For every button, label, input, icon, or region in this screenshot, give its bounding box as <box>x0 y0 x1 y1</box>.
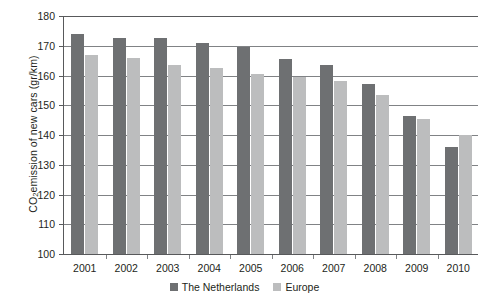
bar-europe-2005 <box>251 74 264 254</box>
plot-area <box>63 16 478 254</box>
legend-label: The Netherlands <box>182 281 260 293</box>
bar-the-netherlands-2007 <box>320 65 333 254</box>
y-tickmark-140 <box>59 135 63 136</box>
bar-europe-2002 <box>127 58 140 254</box>
bar-the-netherlands-2006 <box>279 59 292 254</box>
gridline-170 <box>64 46 478 47</box>
legend-label: Europe <box>285 281 319 293</box>
bar-the-netherlands-2002 <box>113 38 126 254</box>
bar-europe-2010 <box>459 135 472 254</box>
bar-europe-2007 <box>334 81 347 254</box>
x-tickmark-2008 <box>355 255 356 259</box>
x-tick-label-2003: 2003 <box>145 262 191 274</box>
plot-top-border <box>63 16 478 17</box>
bar-the-netherlands-2008 <box>362 84 375 254</box>
x-tick-label-2005: 2005 <box>228 262 274 274</box>
x-tickmark-2006 <box>272 255 273 259</box>
y-tickmark-110 <box>59 224 63 225</box>
y-tick-label-100: 100 <box>27 249 55 259</box>
x-tick-label-2007: 2007 <box>311 262 357 274</box>
y-tick-label-160: 160 <box>27 71 55 81</box>
y-tickmark-150 <box>59 105 63 106</box>
y-tickmark-160 <box>59 76 63 77</box>
x-tickmark-2004 <box>189 255 190 259</box>
x-tickmark-2003 <box>147 255 148 259</box>
legend-swatch-icon-eu <box>273 283 281 291</box>
x-tickmark-2007 <box>313 255 314 259</box>
bar-the-netherlands-2003 <box>154 38 167 254</box>
y-tick-label-170: 170 <box>27 41 55 51</box>
x-tick-label-2004: 2004 <box>186 262 232 274</box>
bar-the-netherlands-2010 <box>445 147 458 254</box>
y-tickmark-130 <box>59 165 63 166</box>
bar-europe-2009 <box>417 119 430 254</box>
bar-europe-2008 <box>376 95 389 254</box>
bar-europe-2003 <box>168 65 181 254</box>
x-tick-label-2001: 2001 <box>62 262 108 274</box>
y-tickmark-120 <box>59 195 63 196</box>
x-tick-label-2002: 2002 <box>103 262 149 274</box>
bar-the-netherlands-2004 <box>196 43 209 254</box>
x-axis-line <box>63 254 478 255</box>
bar-europe-2001 <box>85 55 98 254</box>
y-tick-label-150: 150 <box>27 100 55 110</box>
bar-europe-2004 <box>210 68 223 254</box>
x-tickmark-2002 <box>106 255 107 259</box>
y-tick-label-110: 110 <box>27 219 55 229</box>
y-tick-label-120: 120 <box>27 190 55 200</box>
x-tick-label-2008: 2008 <box>352 262 398 274</box>
x-tick-label-2010: 2010 <box>435 262 481 274</box>
x-tick-label-2009: 2009 <box>394 262 440 274</box>
co2-emission-bar-chart: CO2 emission of new cars (gr/km) 1801701… <box>0 0 489 300</box>
y-tick-label-180: 180 <box>27 11 55 21</box>
bar-the-netherlands-2001 <box>71 34 84 254</box>
bar-europe-2006 <box>293 77 306 254</box>
y-tick-label-130: 130 <box>27 160 55 170</box>
y-tickmark-100 <box>59 254 63 255</box>
y-tick-label-140: 140 <box>27 130 55 140</box>
x-tickmark-2010 <box>438 255 439 259</box>
x-tick-label-2006: 2006 <box>269 262 315 274</box>
x-tickmark-2009 <box>396 255 397 259</box>
legend-item-the-netherlands[interactable]: The Netherlands <box>170 281 260 293</box>
bar-the-netherlands-2005 <box>237 47 250 254</box>
y-tickmark-180 <box>59 16 63 17</box>
chart-legend: The NetherlandsEurope <box>0 281 489 293</box>
y-tickmark-170 <box>59 46 63 47</box>
legend-swatch-icon-nl <box>170 283 178 291</box>
legend-item-europe[interactable]: Europe <box>273 281 319 293</box>
bar-the-netherlands-2009 <box>403 116 416 254</box>
x-tickmark-2005 <box>230 255 231 259</box>
